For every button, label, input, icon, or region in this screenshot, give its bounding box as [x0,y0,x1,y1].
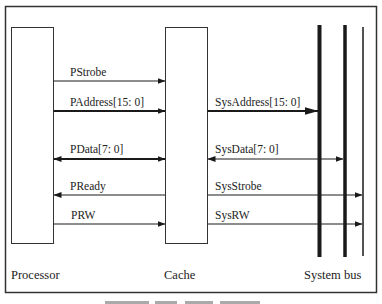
signal-pstrobe: PStrobe [54,66,166,81]
system-bus-lines [320,25,364,257]
signal-label: SysAddress[15: 0] [215,96,300,109]
signal-label: PAddress[15: 0] [70,96,144,108]
signal-pready: PReady [54,180,165,195]
cache-label: Cache [164,268,196,282]
signal-paddress: PAddress[15: 0] [54,96,166,111]
processor-cache-bus-diagram: PStrobe PAddress[15: 0] PData[7: 0] PRea… [0,0,382,304]
signal-sysdata: SysData[7: 0] [208,143,343,159]
signal-label: PStrobe [70,66,106,78]
cache-block [166,28,208,244]
signal-label: SysRW [215,209,250,222]
processor-label: Processor [11,268,60,282]
system-bus-label: System bus [304,268,361,282]
signal-label: PReady [70,180,106,193]
signal-sysaddress: SysAddress[15: 0] [208,96,319,111]
signal-sysstrobe: SysStrobe [208,180,363,195]
signal-label: SysData[7: 0] [215,143,279,156]
signal-prw: PRW [54,209,166,224]
processor-block [12,28,54,244]
signal-sysrw: SysRW [208,209,363,224]
signal-label: PRW [71,209,95,221]
signal-label: SysStrobe [215,180,262,193]
signal-label: PData[7: 0] [70,143,123,155]
signal-pdata: PData[7: 0] [54,143,165,159]
